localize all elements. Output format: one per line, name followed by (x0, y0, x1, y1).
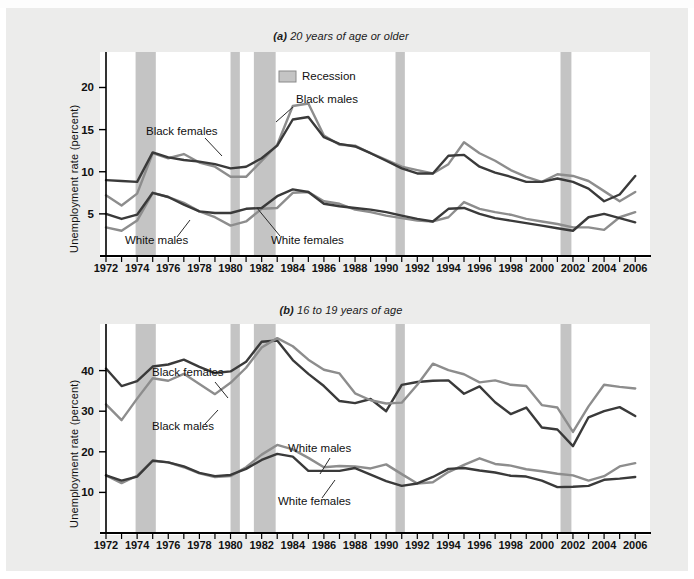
figure-page: (a) 20 years of age or older Unemploymen… (0, 0, 694, 579)
x-tick-label-1978: 1978 (187, 539, 211, 551)
x-tick-label-2004: 2004 (592, 539, 617, 551)
black-females-label: Black females (152, 366, 224, 378)
x-tick-label-1996: 1996 (467, 539, 491, 551)
legend-swatch-recession (279, 71, 296, 82)
panel-a-plot: 5101520197219741976197819801982198419861… (0, 8, 694, 298)
x-tick-label-1992: 1992 (405, 262, 429, 274)
white-males-label: White males (288, 442, 352, 454)
x-tick-label-1984: 1984 (281, 539, 306, 551)
x-tick-label-1972: 1972 (94, 262, 118, 274)
x-tick-label-2000: 2000 (530, 539, 554, 551)
x-tick-label-2002: 2002 (561, 539, 585, 551)
x-tick-label-1986: 1986 (312, 539, 336, 551)
white-females-label: White females (271, 234, 344, 246)
x-tick-label-1978: 1978 (187, 262, 211, 274)
x-tick-label-1988: 1988 (343, 262, 367, 274)
recession-band-2 (254, 324, 276, 533)
x-tick-label-1990: 1990 (374, 262, 398, 274)
black-males-label: Black males (152, 420, 214, 432)
x-tick-label-1976: 1976 (156, 539, 180, 551)
recession-band-1 (231, 324, 240, 533)
x-tick-label-2006: 2006 (623, 262, 647, 274)
y-tick-label-20: 20 (81, 446, 94, 458)
y-tick-label-40: 40 (81, 365, 94, 377)
x-tick-label-1982: 1982 (249, 539, 273, 551)
x-tick-label-1994: 1994 (436, 539, 461, 551)
x-tick-label-1984: 1984 (281, 262, 306, 274)
panel-a: (a) 20 years of age or older Unemploymen… (0, 8, 682, 290)
y-tick-label-5: 5 (88, 208, 95, 220)
x-tick-label-1980: 1980 (218, 262, 242, 274)
x-tick-label-1974: 1974 (125, 262, 150, 274)
recession-band-3 (396, 324, 405, 533)
black-females-label: Black females (146, 125, 218, 137)
white-females-label: White females (278, 495, 351, 507)
legend-label-recession: Recession (302, 70, 356, 82)
x-tick-label-1988: 1988 (343, 539, 367, 551)
panel-b: (b) 16 to 19 years of age Unemployment r… (0, 290, 682, 571)
x-tick-label-1980: 1980 (218, 539, 242, 551)
x-tick-label-1998: 1998 (498, 262, 522, 274)
y-tick-label-10: 10 (81, 486, 94, 498)
x-tick-label-1996: 1996 (467, 262, 491, 274)
top-white-strip (0, 0, 694, 8)
x-tick-label-1994: 1994 (436, 262, 461, 274)
x-tick-label-1974: 1974 (125, 539, 150, 551)
x-tick-label-1998: 1998 (498, 539, 522, 551)
x-tick-label-1986: 1986 (312, 262, 336, 274)
y-tick-label-30: 30 (81, 405, 94, 417)
panel-b-plot: 1020304019721974197619781980198219841986… (0, 290, 694, 571)
x-tick-label-1976: 1976 (156, 262, 180, 274)
black-males-label: Black males (296, 93, 358, 105)
x-tick-label-2004: 2004 (592, 262, 617, 274)
x-tick-label-2006: 2006 (623, 539, 647, 551)
x-tick-label-2002: 2002 (561, 262, 585, 274)
y-tick-label-10: 10 (81, 166, 94, 178)
x-tick-label-1992: 1992 (405, 539, 429, 551)
white-males-label: White males (125, 234, 189, 246)
x-tick-label-1982: 1982 (249, 262, 273, 274)
recession-band-3 (396, 52, 405, 256)
y-tick-label-15: 15 (81, 124, 94, 136)
x-tick-label-1990: 1990 (374, 539, 398, 551)
recession-band-2 (254, 52, 276, 256)
x-tick-label-1972: 1972 (94, 539, 118, 551)
x-tick-label-2000: 2000 (530, 262, 554, 274)
y-tick-label-20: 20 (81, 81, 94, 93)
